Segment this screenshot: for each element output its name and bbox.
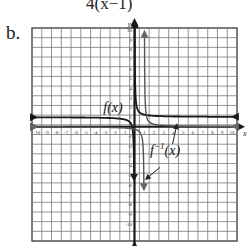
y-tick-label: -9	[128, 212, 133, 217]
y-tick-label: 6	[130, 67, 133, 72]
x-tick-label: -1	[123, 130, 128, 135]
y-tick-label: -6	[128, 183, 133, 188]
x-tick-label: 7	[202, 130, 205, 135]
x-tick-label: -7	[64, 130, 69, 135]
y-tick-label: -5	[128, 173, 133, 178]
y-tick-label: 3	[130, 96, 133, 101]
x-axis-label: x	[242, 129, 247, 138]
x-tick-label: 2	[153, 130, 156, 135]
x-tick-label: 8	[211, 130, 214, 135]
y-tick-label: -3	[128, 154, 133, 159]
x-tick-label: -4	[93, 130, 98, 135]
x-tick-label: -3	[103, 130, 108, 135]
y-axis-label: y	[127, 20, 132, 29]
finverse-label: f−1(x)	[150, 141, 180, 159]
x-tick-label: 9	[221, 130, 224, 135]
x-tick-label: -5	[84, 130, 89, 135]
y-tick-label: -4	[128, 163, 133, 168]
x-tick-label: 10	[230, 130, 236, 135]
y-tick-label: -7	[128, 193, 133, 198]
fx-label: f(x)	[103, 100, 123, 116]
y-tick-label: 1	[130, 115, 133, 120]
x-tick-label: -8	[54, 130, 59, 135]
y-tick-label: 2	[130, 105, 133, 110]
y-tick-label: 4	[130, 86, 133, 91]
y-tick-label: 8	[130, 47, 133, 52]
graph: -10-9-8-7-6-5-4-3-2-112345678910-10-9-8-…	[0, 0, 252, 246]
y-tick-label: -1	[128, 134, 133, 139]
y-tick-label: -8	[128, 202, 133, 207]
x-tick-label: 1	[143, 130, 146, 135]
y-tick-label: 9	[130, 38, 133, 43]
y-tick-label: 5	[130, 76, 133, 81]
y-tick-label: -10	[125, 222, 132, 227]
x-tick-label: -6	[74, 130, 79, 135]
x-tick-label: 5	[182, 130, 185, 135]
x-tick-label: 6	[192, 130, 195, 135]
x-tick-label: -9	[45, 130, 50, 135]
x-tick-label: 3	[163, 130, 166, 135]
y-tick-label: 7	[130, 57, 133, 62]
x-tick-label: -2	[113, 130, 118, 135]
y-tick-label: -2	[128, 144, 133, 149]
x-tick-label: -10	[34, 130, 41, 135]
